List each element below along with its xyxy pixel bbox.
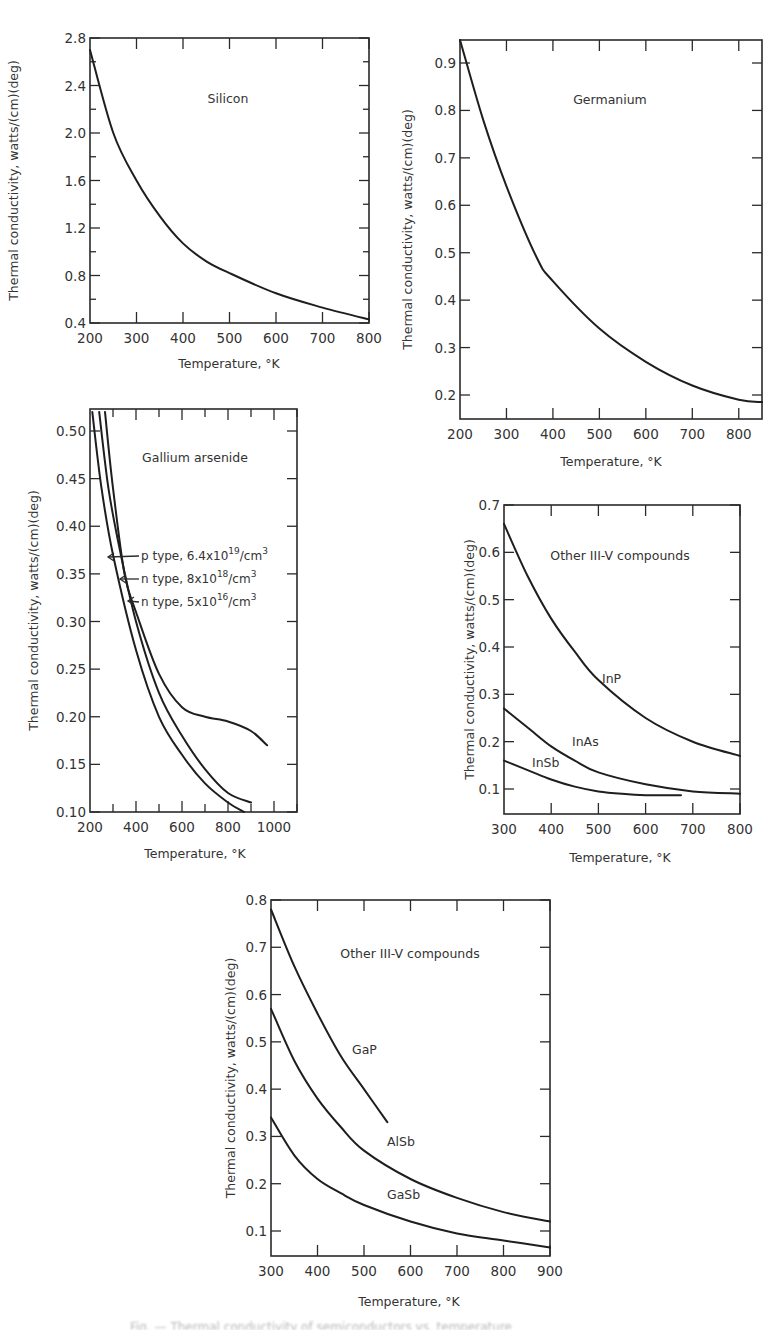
series-label: AlSb	[387, 1134, 415, 1149]
y-axis-label: Thermal conductivity, watts/(cm)(deg)	[400, 109, 415, 351]
x-tick-label: 400	[540, 426, 566, 442]
x-tick-label: 300	[491, 821, 517, 837]
y-tick-label: 2.0	[65, 125, 86, 141]
annotation-label: n type, 5x1016/cm3	[141, 592, 256, 609]
series-label: InAs	[572, 734, 599, 749]
x-tick-label: 200	[447, 426, 473, 442]
y-tick-label: 0.4	[246, 1081, 267, 1097]
y-tick-label: 0.7	[246, 939, 267, 955]
x-tick-label: 400	[538, 821, 564, 837]
y-tick-label: 0.2	[435, 387, 456, 403]
y-tick-label: 0.7	[479, 497, 500, 513]
x-tick-label: 900	[537, 1263, 563, 1279]
plot-frame	[90, 409, 297, 812]
x-tick-label: 300	[258, 1263, 284, 1279]
figure-canvas: 0.40.81.21.62.02.42.82003004005006007008…	[0, 0, 779, 1330]
y-tick-label: 0.8	[435, 102, 456, 118]
y-tick-label: 0.35	[56, 566, 86, 582]
x-tick-label: 400	[123, 819, 149, 835]
y-tick-label: 0.4	[479, 639, 500, 655]
y-tick-label: 0.2	[479, 734, 500, 750]
y-axis-label: Thermal conductivity, watts/(cm)(deg)	[26, 490, 41, 732]
y-axis-label: Thermal conductivity, watts/(cm)(deg)	[6, 60, 21, 302]
panel-title: Germanium	[573, 92, 647, 107]
x-axis-label: Temperature, °K	[177, 356, 280, 371]
chart-other-iii-v-a: 0.10.20.30.40.50.60.7300400500600700800T…	[462, 497, 753, 865]
y-tick-label: 0.5	[435, 245, 456, 261]
x-tick-label: 400	[305, 1263, 331, 1279]
series-label: GaP	[352, 1042, 377, 1057]
x-tick-label: 800	[491, 1263, 517, 1279]
plot-frame	[90, 38, 369, 323]
y-tick-label: 0.4	[435, 292, 456, 308]
panel-title: Other III-V compounds	[340, 946, 479, 961]
x-tick-label: 600	[633, 426, 659, 442]
x-tick-label: 300	[124, 330, 150, 346]
x-tick-label: 600	[398, 1263, 424, 1279]
y-tick-label: 0.50	[56, 423, 86, 439]
y-tick-label: 0.1	[246, 1223, 267, 1239]
figure-caption: Fig. — Thermal conductivity of semicondu…	[130, 1320, 690, 1330]
x-tick-label: 700	[310, 330, 336, 346]
x-axis-label: Temperature, °K	[357, 1294, 460, 1309]
y-tick-label: 0.5	[246, 1034, 267, 1050]
annotation-label: n type, 8x1018/cm3	[141, 569, 256, 586]
x-tick-label: 600	[633, 821, 659, 837]
x-tick-label: 500	[586, 821, 612, 837]
y-tick-label: 0.10	[56, 804, 86, 820]
chart-other-iii-v-b: 0.10.20.30.40.50.60.70.83004005006007008…	[223, 892, 563, 1309]
y-tick-label: 0.3	[479, 686, 500, 702]
y-tick-label: 1.2	[65, 220, 86, 236]
y-tick-label: 0.4	[65, 315, 86, 331]
y-tick-label: 0.3	[246, 1128, 267, 1144]
panel-title: Other III-V compounds	[550, 548, 689, 563]
panel-title: Gallium arsenide	[142, 450, 248, 465]
y-tick-label: 0.3	[435, 340, 456, 356]
series-curve	[92, 412, 244, 812]
y-tick-label: 0.2	[246, 1176, 267, 1192]
x-tick-label: 200	[77, 819, 103, 835]
y-axis-label: Thermal conductivity, watts/(cm)(deg)	[462, 539, 477, 781]
x-axis-label: Temperature, °K	[559, 454, 662, 469]
series-curve	[271, 910, 387, 1123]
y-tick-label: 0.25	[56, 661, 86, 677]
x-tick-label: 700	[680, 821, 706, 837]
series-curve	[504, 761, 681, 796]
series-label: GaSb	[387, 1187, 420, 1202]
annotation-label: p type, 6.4x1019/cm3	[141, 546, 268, 563]
y-tick-label: 0.1	[479, 781, 500, 797]
y-tick-label: 0.40	[56, 518, 86, 534]
y-tick-label: 0.45	[56, 471, 86, 487]
y-tick-label: 0.9	[435, 55, 456, 71]
x-tick-label: 800	[356, 330, 382, 346]
x-axis-label: Temperature, °K	[143, 846, 246, 861]
series-label: InP	[602, 671, 622, 686]
chart-silicon: 0.40.81.21.62.02.42.82003004005006007008…	[6, 30, 382, 371]
y-tick-label: 1.6	[65, 173, 86, 189]
y-tick-label: 0.8	[65, 268, 86, 284]
x-axis-label: Temperature, °K	[568, 850, 671, 865]
x-tick-label: 600	[169, 819, 195, 835]
x-tick-label: 500	[217, 330, 243, 346]
x-tick-label: 600	[263, 330, 289, 346]
series-curve	[504, 709, 740, 794]
y-tick-label: 0.6	[435, 197, 456, 213]
x-tick-label: 400	[170, 330, 196, 346]
x-tick-label: 800	[727, 821, 753, 837]
x-tick-label: 1000	[257, 819, 291, 835]
y-tick-label: 0.15	[56, 756, 86, 772]
y-tick-label: 0.5	[479, 592, 500, 608]
y-tick-label: 0.30	[56, 614, 86, 630]
panel-title: Silicon	[208, 91, 249, 106]
series-label: InSb	[532, 755, 560, 770]
x-tick-label: 700	[679, 426, 705, 442]
x-tick-label: 200	[77, 330, 103, 346]
x-tick-label: 500	[351, 1263, 377, 1279]
x-tick-label: 500	[586, 426, 612, 442]
x-tick-label: 700	[444, 1263, 470, 1279]
x-tick-label: 300	[494, 426, 520, 442]
x-tick-label: 800	[215, 819, 241, 835]
chart-germanium: 0.20.30.40.50.60.70.80.92003004005006007…	[400, 40, 762, 469]
y-tick-label: 0.6	[246, 987, 267, 1003]
y-tick-label: 0.7	[435, 150, 456, 166]
